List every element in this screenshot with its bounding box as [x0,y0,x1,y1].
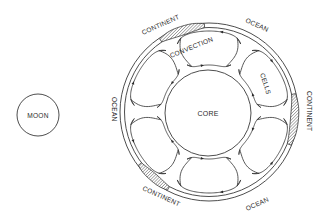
continent-1 [287,94,298,146]
flow-arrow-icon [252,128,255,131]
moon-label: MOON [27,112,48,119]
continent-0 [160,23,205,42]
core-label: CORE [197,110,218,117]
ocean-label-left: OCEAN [111,97,118,121]
ocean-label-bottom: OCEAN [245,196,270,212]
convection-cell-3 [177,157,240,193]
flow-arrow-icon [252,93,255,96]
flow-arrow-icon [132,81,135,84]
continent-label-right: CONTINENT [306,91,313,131]
flow-arrow-icon [132,139,135,142]
convection-label: CONVECTION [169,35,214,59]
ocean-label-top: OCEAN [245,17,270,33]
convection-diagram: MOON CORE CONVECTION CELLS CONTINENT OCE… [0,0,318,217]
cells-label: CELLS [259,72,273,95]
moon: MOON [17,94,59,136]
